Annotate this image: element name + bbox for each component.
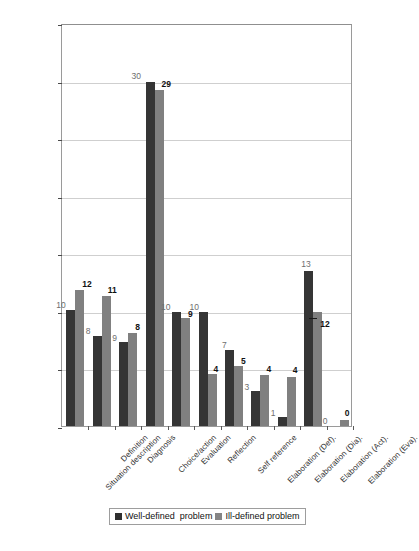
x-axis-label: Self reference (256, 433, 299, 476)
chart-legend: Well-defined problem Ill-defined problem (109, 508, 306, 525)
legend-entry-well-defined: Well-defined problem (115, 511, 212, 521)
medium-gray-swatch (215, 513, 222, 520)
legend-label-ill-defined: Ill-defined problem (225, 511, 299, 521)
dark-gray-swatch (115, 513, 122, 520)
legend-entry-ill-defined: Ill-defined problem (215, 511, 299, 521)
x-axis-label: Elaboration (Act). (339, 433, 390, 484)
legend-label-well-defined: Well-defined problem (125, 511, 212, 521)
